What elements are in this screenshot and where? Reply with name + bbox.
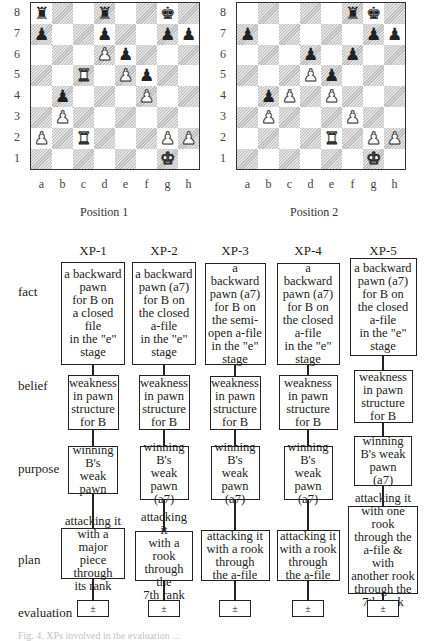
square-a3 [237,107,258,128]
square-b5 [52,65,73,86]
connector-line [234,500,235,530]
black-pawn-icon: ♟ [303,46,318,63]
white-pawn-icon: ♟ [303,67,318,84]
position-label: Position 1 [80,205,128,220]
square-g1: ♚ [157,149,178,170]
square-h8 [178,3,199,24]
square-b2 [52,128,73,149]
file-label: f [342,177,363,192]
rank-label: 6 [12,47,22,62]
square-g2: ♟ [363,128,384,149]
plan-box: attacking it with a major piece through … [61,528,125,579]
row-label-fact: fact [18,284,37,300]
black-pawn-icon: ♟ [345,46,360,63]
figure-caption: Fig. 4. XPs involved in the evaluation .… [18,630,180,641]
file-label: h [384,177,405,192]
white-pawn-icon: ♟ [345,109,360,126]
square-c6 [73,45,94,66]
rank-label: 5 [218,67,228,82]
square-f3: ♟ [342,107,363,128]
connector-line [307,365,308,375]
purpose-box: winning B's weak pawn (a7) [284,446,333,500]
white-king-icon: ♚ [160,150,175,167]
rank-label: 3 [218,109,228,124]
belief-box: weakness in pawn structure for B [68,375,119,430]
fact-box: a backward pawn (a7) for B on the closed… [277,263,340,365]
connector-line [92,365,93,375]
square-c3 [73,107,94,128]
black-pawn-icon: ♟ [240,26,255,43]
square-b3: ♟ [258,107,279,128]
rank-label: 8 [12,5,22,20]
black-pawn-icon: ♟ [97,26,112,43]
square-b4: ♟ [258,86,279,107]
square-g3 [157,107,178,128]
black-pawn-icon: ♟ [34,26,49,43]
black-pawn-icon: ♟ [324,67,339,84]
white-pawn-icon: ♟ [181,130,196,147]
square-b1 [52,149,73,170]
column-title-xp-2: XP-2 [129,243,199,259]
square-f7 [342,24,363,45]
purpose-box: winning B's weak pawn (a7) [211,446,260,500]
black-pawn-icon: ♟ [366,26,381,43]
square-f5 [342,65,363,86]
black-pawn-icon: ♟ [181,26,196,43]
square-e5: ♟ [115,65,136,86]
evaluation-box: ± [148,600,180,617]
square-a1 [31,149,52,170]
black-rook-icon: ♜ [345,5,360,22]
rank-label: 7 [218,26,228,41]
rank-label: 5 [12,67,22,82]
white-pawn-icon: ♟ [366,130,381,147]
square-f1 [136,149,157,170]
square-a8 [237,3,258,24]
file-label: b [258,177,279,192]
connector-line [234,365,235,376]
square-e4: ♟ [321,86,342,107]
square-f6: ♟ [342,45,363,66]
square-c8 [279,3,300,24]
square-b7 [258,24,279,45]
square-d8 [300,3,321,24]
square-e6 [321,45,342,66]
column-title-xp-4: XP-4 [273,243,343,259]
square-a4 [237,86,258,107]
square-g1: ♚ [363,149,384,170]
square-a2: ♟ [31,128,52,149]
square-d1 [94,149,115,170]
square-h6 [384,45,405,66]
white-king-icon: ♚ [366,150,381,167]
square-b1 [258,149,279,170]
square-h8 [384,3,405,24]
belief-box: weakness in pawn structure for B [279,375,338,430]
square-a5 [237,65,258,86]
square-f3 [136,107,157,128]
rank-label: 4 [218,88,228,103]
square-h4 [178,86,199,107]
square-d2 [94,128,115,149]
square-d1 [300,149,321,170]
square-e3 [115,107,136,128]
square-f8: ♜ [342,3,363,24]
square-a7: ♟ [237,24,258,45]
square-c3 [279,107,300,128]
square-h2: ♟ [384,128,405,149]
connector-line [382,356,383,370]
rank-label: 1 [12,151,22,166]
purpose-box: winning B's weak pawn (a7) [140,446,189,500]
file-label: a [31,177,52,192]
square-a3 [31,107,52,128]
connector-line [234,581,235,600]
file-label: d [300,177,321,192]
square-h5 [178,65,199,86]
square-e4 [115,86,136,107]
plan-box: attacking it with one rook through the a… [348,506,418,594]
square-a6 [237,45,258,66]
square-f8 [136,3,157,24]
square-h4 [384,86,405,107]
square-h1 [178,149,199,170]
file-label: g [363,177,384,192]
square-e1 [321,149,342,170]
square-g5 [363,65,384,86]
